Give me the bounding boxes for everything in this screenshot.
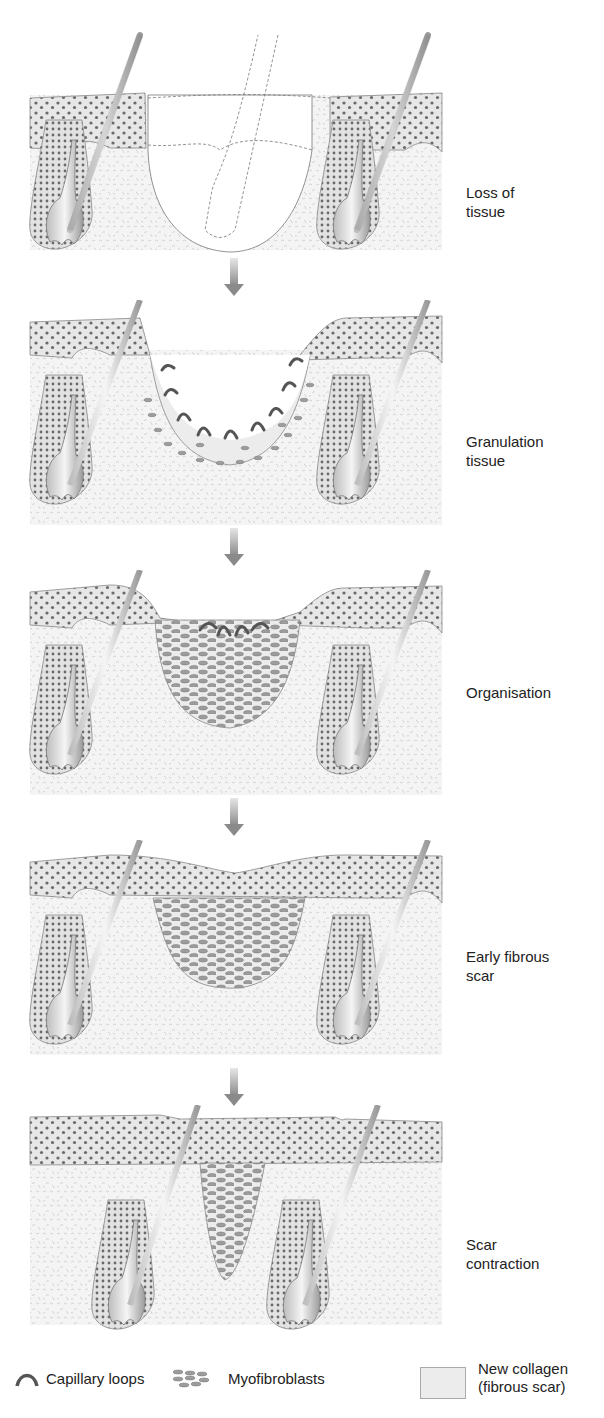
stage-label-line: tissue	[466, 451, 544, 470]
stage-label: Loss of tissue	[466, 183, 514, 221]
stage-panel-scar-contraction: Scar contraction	[0, 1105, 604, 1330]
down-arrow-icon	[223, 258, 245, 298]
legend: Capillary loops Myofibroblasts New colla…	[0, 1360, 604, 1410]
legend-label: Capillary loops	[46, 1370, 144, 1388]
collagen-swatch-icon	[420, 1367, 466, 1399]
skin-diagram-granulation-tissue	[0, 300, 604, 530]
stage-panel-granulation-tissue: Granulation tissue	[0, 300, 604, 530]
stage-label-line: Scar	[466, 1235, 539, 1254]
legend-label: New collagen	[478, 1360, 568, 1378]
legend-label: Myofibroblasts	[228, 1370, 325, 1388]
stage-label-line: Loss of	[466, 183, 514, 202]
capillary-loop-icon	[14, 1368, 40, 1388]
stage-label-line: scar	[466, 966, 549, 985]
stage-label-line: Granulation	[466, 432, 544, 451]
stage-label-line: Organisation	[466, 683, 551, 702]
down-arrow-icon	[223, 798, 245, 838]
skin-diagram-scar-contraction	[0, 1105, 604, 1330]
stage-label: Scar contraction	[466, 1235, 539, 1273]
stage-label: Granulation tissue	[466, 432, 544, 470]
stage-panel-organisation: Organisation	[0, 570, 604, 800]
stage-label: Organisation	[466, 683, 551, 702]
stage-label-line: Early fibrous	[466, 947, 549, 966]
down-arrow-icon	[223, 528, 245, 568]
stage-label-line: contraction	[466, 1254, 539, 1273]
legend-label: (fibrous scar)	[478, 1378, 566, 1396]
stage-label: Early fibrous scar	[466, 947, 549, 985]
stage-panel-early-fibrous-scar: Early fibrous scar	[0, 840, 604, 1055]
myofibroblast-icon	[170, 1368, 216, 1390]
down-arrow-icon	[223, 1068, 245, 1108]
stage-label-line: tissue	[466, 202, 514, 221]
stage-panel-loss-of-tissue: Loss of tissue	[0, 0, 604, 255]
